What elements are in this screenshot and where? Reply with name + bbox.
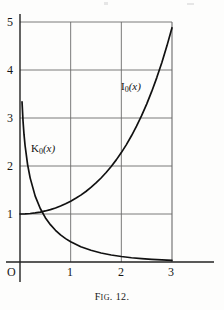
y-tick-label-4: 4 [7, 64, 13, 76]
caption-suffix: . 12. [110, 291, 130, 302]
caption-smallcaps: IG [101, 293, 110, 302]
y-tick-label-2: 2 [7, 160, 13, 172]
gridlines-vertical [71, 22, 172, 262]
curve-label-k0-base: K [31, 142, 39, 154]
curve-label-i0: I0(x) [121, 81, 141, 94]
curve-label-i0-arg: (x) [129, 80, 141, 92]
gridlines-horizontal [20, 22, 172, 214]
x-tick-label-2: 2 [118, 266, 124, 278]
y-tick-label-5: 5 [7, 16, 13, 28]
x-tick-label-1: 1 [67, 266, 73, 278]
curve-i0 [20, 28, 172, 214]
curve-label-k0-arg: (x) [43, 142, 55, 154]
figure-caption: FIG. 12. [0, 291, 224, 302]
y-tick-label-1: 1 [7, 208, 13, 220]
x-tick-label-3: 3 [168, 266, 174, 278]
figure-container: 5 4 3 2 1 O 1 2 3 I0(x) K0(x) FIG. 12. [0, 0, 224, 310]
curve-label-k0: K0(x) [31, 143, 55, 156]
y-tick-label-3: 3 [7, 112, 13, 124]
origin-label: O [7, 266, 16, 278]
